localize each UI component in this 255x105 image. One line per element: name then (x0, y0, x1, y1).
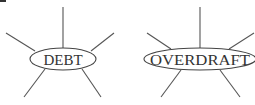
spider-diagram-overdraft: OVERDRAFT (144, 7, 255, 97)
spoke-upper-right (91, 33, 114, 51)
spoke-upper-right (229, 33, 254, 49)
spoke-upper-left (147, 33, 171, 49)
spider-diagrams: DEBT OVERDRAFT (0, 0, 255, 105)
spoke-upper-left (6, 33, 35, 51)
spoke-lower-left (161, 70, 181, 97)
spoke-lower-left (24, 69, 45, 97)
spoke-lower-right (220, 70, 240, 97)
spider-diagram-debt: DEBT (6, 7, 114, 97)
corner-mark (0, 0, 6, 2)
spoke-lower-right (82, 69, 101, 97)
center-node-label: DEBT (43, 52, 82, 68)
center-node-label: OVERDRAFT (150, 52, 250, 68)
